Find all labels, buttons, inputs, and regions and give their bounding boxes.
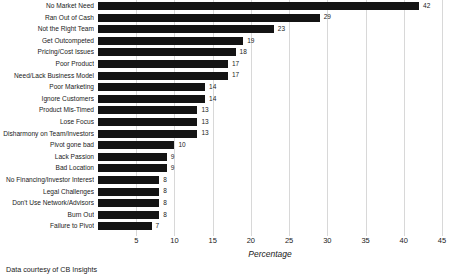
x-axis-title: Percentage xyxy=(98,249,442,259)
x-tick-label: 40 xyxy=(400,236,408,245)
bar-value-label: 14 xyxy=(209,96,216,103)
bar xyxy=(98,153,167,161)
category-label: Lose Focus xyxy=(0,116,94,128)
bar-value-label: 9 xyxy=(171,154,175,161)
x-axis-ticks: 51015202530354045 xyxy=(98,236,442,250)
category-label: Pricing/Cost Issues xyxy=(0,46,94,58)
category-label: Failure to Pivot xyxy=(0,220,94,232)
bar-value-label: 7 xyxy=(156,223,160,230)
bar-row: 14 xyxy=(98,81,216,93)
bar xyxy=(98,176,159,184)
category-label: Poor Marketing xyxy=(0,81,94,93)
bar-value-label: 17 xyxy=(232,61,239,68)
x-tick-label: 35 xyxy=(361,236,369,245)
category-label: Need/Lack Business Model xyxy=(0,70,94,82)
bar-row: 10 xyxy=(98,139,186,151)
bar-row: 13 xyxy=(98,104,209,116)
bar-value-label: 8 xyxy=(163,177,167,184)
bar-value-label: 8 xyxy=(163,212,167,219)
bar-row: 29 xyxy=(98,12,331,24)
category-label: Ran Out of Cash xyxy=(0,12,94,24)
category-label: Pivot gone bad xyxy=(0,139,94,151)
bar xyxy=(98,48,236,56)
category-label: Poor Product xyxy=(0,58,94,70)
bar xyxy=(98,199,159,207)
bar-row: 8 xyxy=(98,174,167,186)
bar-value-label: 23 xyxy=(278,26,285,33)
category-label: Don't Use Network/Advisors xyxy=(0,197,94,209)
bar-value-label: 19 xyxy=(247,38,254,45)
bar xyxy=(98,130,197,138)
bar xyxy=(98,72,228,80)
bar xyxy=(98,37,243,45)
bar xyxy=(98,164,167,172)
bar-row: 9 xyxy=(98,162,174,174)
x-tick-label: 20 xyxy=(247,236,255,245)
bar-value-label: 17 xyxy=(232,72,239,79)
category-label: Disharmony on Team/Investors xyxy=(0,128,94,140)
chart-caption: Data courtesy of CB Insights xyxy=(6,265,97,274)
x-tick-label: 45 xyxy=(438,236,446,245)
bar-row: 14 xyxy=(98,93,216,105)
x-tick-label: 10 xyxy=(170,236,178,245)
bar-value-label: 13 xyxy=(201,130,208,137)
gridline xyxy=(442,0,443,236)
bar-row: 23 xyxy=(98,23,285,35)
bar-row: 17 xyxy=(98,70,239,82)
bar xyxy=(98,25,274,33)
plot-area: 422923191817171414131313109988887 xyxy=(98,0,442,236)
x-tick-label: 15 xyxy=(208,236,216,245)
bar-row: 13 xyxy=(98,116,209,128)
bar-row: 18 xyxy=(98,46,247,58)
bar-row: 17 xyxy=(98,58,239,70)
x-tick-label: 30 xyxy=(323,236,331,245)
bar-value-label: 8 xyxy=(163,188,167,195)
bar-chart: No Market NeedRan Out of CashNot the Rig… xyxy=(0,0,456,278)
bar xyxy=(98,83,205,91)
bar-row: 9 xyxy=(98,151,174,163)
bar xyxy=(98,222,152,230)
category-label: Burn Out xyxy=(0,209,94,221)
bar-value-label: 8 xyxy=(163,200,167,207)
bar-value-label: 9 xyxy=(171,165,175,172)
bar xyxy=(98,118,197,126)
bar xyxy=(98,95,205,103)
bar xyxy=(98,106,197,114)
category-label: Product Mis-Timed xyxy=(0,104,94,116)
bar-value-label: 18 xyxy=(240,49,247,56)
bar-row: 42 xyxy=(98,0,430,12)
bar xyxy=(98,60,228,68)
bar-row: 8 xyxy=(98,186,167,198)
category-label: Lack Passion xyxy=(0,151,94,163)
bar-row: 8 xyxy=(98,197,167,209)
bar-row: 19 xyxy=(98,35,254,47)
category-axis-labels: No Market NeedRan Out of CashNot the Rig… xyxy=(0,0,94,236)
bar xyxy=(98,141,174,149)
bar xyxy=(98,2,419,10)
bar-value-label: 10 xyxy=(178,142,185,149)
bar-row: 8 xyxy=(98,209,167,221)
bar-series: 422923191817171414131313109988887 xyxy=(98,0,442,236)
x-tick-label: 25 xyxy=(285,236,293,245)
bar-row: 13 xyxy=(98,128,209,140)
bar-value-label: 42 xyxy=(423,3,430,10)
category-label: No Market Need xyxy=(0,0,94,12)
bar xyxy=(98,188,159,196)
category-label: Bad Location xyxy=(0,162,94,174)
category-label: Get Outcompeted xyxy=(0,35,94,47)
bar-row: 7 xyxy=(98,220,159,232)
category-label: Not the Right Team xyxy=(0,23,94,35)
bar-value-label: 13 xyxy=(201,119,208,126)
bar-value-label: 13 xyxy=(201,107,208,114)
bar xyxy=(98,211,159,219)
category-label: No Financing/Investor Interest xyxy=(0,174,94,186)
bar xyxy=(98,14,320,22)
x-tick-label: 5 xyxy=(134,236,138,245)
bar-value-label: 29 xyxy=(324,14,331,21)
category-label: Ignore Customers xyxy=(0,93,94,105)
bar-value-label: 14 xyxy=(209,84,216,91)
category-label: Legal Challenges xyxy=(0,186,94,198)
